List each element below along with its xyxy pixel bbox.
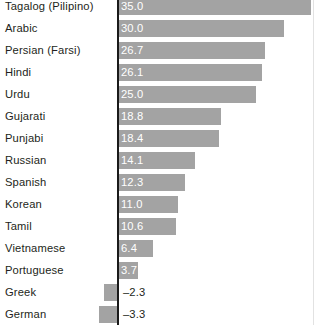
category-label: Arabic bbox=[5, 18, 38, 40]
bar-value-label: 6.4 bbox=[121, 240, 137, 257]
category-label: Tamil bbox=[5, 216, 32, 238]
category-label: Korean bbox=[5, 194, 42, 216]
bar-row: Arabic30.0 bbox=[0, 18, 323, 40]
bar-rows-container: Tagalog (Pilipino)35.0Arabic30.0Persian … bbox=[0, 0, 323, 325]
bar-value-label: 14.1 bbox=[121, 152, 143, 169]
category-label: Spanish bbox=[5, 172, 46, 194]
bar-row: Urdu25.0 bbox=[0, 84, 323, 106]
bar-value-label: 18.4 bbox=[121, 130, 143, 147]
bar-row: Portuguese3.7 bbox=[0, 260, 323, 282]
category-label: Tagalog (Pilipino) bbox=[5, 0, 94, 18]
horizontal-bar-chart: Tagalog (Pilipino)35.0Arabic30.0Persian … bbox=[0, 0, 323, 325]
zero-axis-line bbox=[117, 0, 119, 325]
category-label: Greek bbox=[5, 282, 36, 304]
category-label: Hindi bbox=[5, 62, 31, 84]
bar-value-label: 10.6 bbox=[121, 218, 143, 235]
bar-row: Spanish12.3 bbox=[0, 172, 323, 194]
bar-row: Korean11.0 bbox=[0, 194, 323, 216]
bar-negative bbox=[99, 306, 117, 323]
bar-value-label: 12.3 bbox=[121, 174, 143, 191]
category-label: Punjabi bbox=[5, 128, 43, 150]
category-label: Portuguese bbox=[5, 260, 64, 282]
bar-value-label: 26.1 bbox=[121, 64, 143, 81]
bar-row: Russian14.1 bbox=[0, 150, 323, 172]
bar-row: Hindi26.1 bbox=[0, 62, 323, 84]
bar-row: Greek–2.3 bbox=[0, 282, 323, 304]
bar-value-label: –3.3 bbox=[123, 306, 145, 323]
bar-row: Vietnamese6.4 bbox=[0, 238, 323, 260]
chart-plot-area: Tagalog (Pilipino)35.0Arabic30.0Persian … bbox=[0, 0, 323, 325]
bar-row: Gujarati18.8 bbox=[0, 106, 323, 128]
bar-positive bbox=[117, 0, 311, 15]
bar-row: Tagalog (Pilipino)35.0 bbox=[0, 0, 323, 18]
bar-negative bbox=[104, 284, 117, 301]
bar-row: Persian (Farsi)26.7 bbox=[0, 40, 323, 62]
bar-row: Tamil10.6 bbox=[0, 216, 323, 238]
bar-value-label: 18.8 bbox=[121, 108, 143, 125]
bar-value-label: 11.0 bbox=[121, 196, 143, 213]
category-label: German bbox=[5, 304, 46, 325]
category-label: Persian (Farsi) bbox=[5, 40, 81, 62]
bar-row: Punjabi18.4 bbox=[0, 128, 323, 150]
bar-value-label: 30.0 bbox=[121, 20, 143, 37]
bar-value-label: –2.3 bbox=[123, 284, 145, 301]
category-label: Vietnamese bbox=[5, 238, 65, 260]
right-edge-rule bbox=[313, 0, 314, 325]
bar-value-label: 25.0 bbox=[121, 86, 143, 103]
bar-value-label: 3.7 bbox=[121, 262, 137, 279]
bar-value-label: 26.7 bbox=[121, 42, 143, 59]
bar-value-label: 35.0 bbox=[121, 0, 143, 15]
category-label: Russian bbox=[5, 150, 46, 172]
category-label: Gujarati bbox=[5, 106, 45, 128]
bar-row: German–3.3 bbox=[0, 304, 323, 325]
category-label: Urdu bbox=[5, 84, 30, 106]
